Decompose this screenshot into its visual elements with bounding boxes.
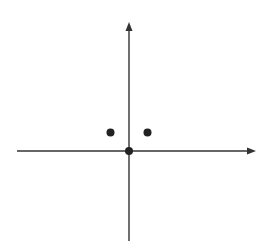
- point-1-1: [144, 129, 152, 137]
- x-axis-arrow-icon: [247, 148, 256, 155]
- point-neg1-1: [107, 129, 115, 137]
- y-axis-arrow-icon: [126, 22, 133, 31]
- graph: [0, 0, 264, 241]
- point-origin: [125, 147, 133, 155]
